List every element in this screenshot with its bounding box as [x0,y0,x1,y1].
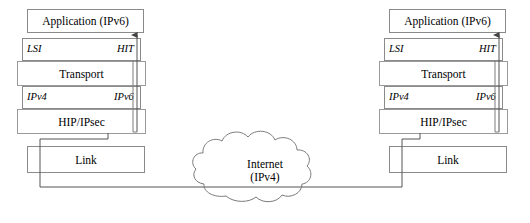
left-transport-layer-label: Transport [59,68,103,80]
right-application-layer-box: Application (IPv6) [389,9,506,33]
left-transport-layer-box: Transport [17,61,146,86]
right-hip-ipsec-layer-box: HIP/IPsec [379,109,508,134]
left-ipv6-label: IPv6 [114,91,134,102]
left-ipv4-label: IPv4 [27,91,47,102]
right-hip-ipsec-layer-label: HIP/IPsec [420,116,467,128]
right-hit-label: HIT [479,43,496,54]
left-hit-label: HIT [117,43,134,54]
internet-cloud-label-line1: Internet [215,158,315,171]
left-application-layer-label: Application (IPv6) [42,15,129,27]
diagram-canvas: Application (IPv6) LSI HIT Transport IPv… [0,0,530,223]
left-application-layer-box: Application (IPv6) [27,9,144,33]
right-ipv6-label: IPv6 [476,91,496,102]
right-link-layer-box: Link [389,146,507,173]
left-hip-ipsec-layer-box: HIP/IPsec [17,109,146,134]
right-lsi-label: LSI [389,43,404,54]
internet-cloud-label: Internet (IPv4) [215,158,315,184]
left-hip-ipsec-layer-label: HIP/IPsec [58,116,105,128]
internet-cloud-label-line2: (IPv4) [215,171,315,184]
left-link-layer-label: Link [75,154,97,166]
right-ipv4-label: IPv4 [389,91,409,102]
right-application-layer-label: Application (IPv6) [404,15,491,27]
right-transport-layer-box: Transport [379,61,508,86]
right-transport-layer-label: Transport [421,68,465,80]
left-lsi-label: LSI [27,43,42,54]
left-link-layer-box: Link [27,146,145,173]
right-link-layer-label: Link [437,154,459,166]
